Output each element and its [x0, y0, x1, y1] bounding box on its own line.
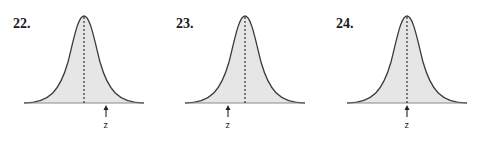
normal-curve: z	[160, 0, 320, 146]
z-arrow-icon	[104, 105, 109, 117]
z-label: z	[405, 120, 410, 130]
figure-22: 22. z	[0, 0, 160, 146]
z-label: z	[104, 120, 109, 130]
normal-curve: z	[320, 0, 479, 146]
figure-24: 24. z	[320, 0, 479, 146]
normal-curve: z	[0, 0, 160, 146]
z-arrow-icon	[226, 105, 231, 117]
figure-23: 23. z	[160, 0, 320, 146]
z-arrow-icon	[405, 105, 410, 117]
z-label: z	[226, 120, 231, 130]
